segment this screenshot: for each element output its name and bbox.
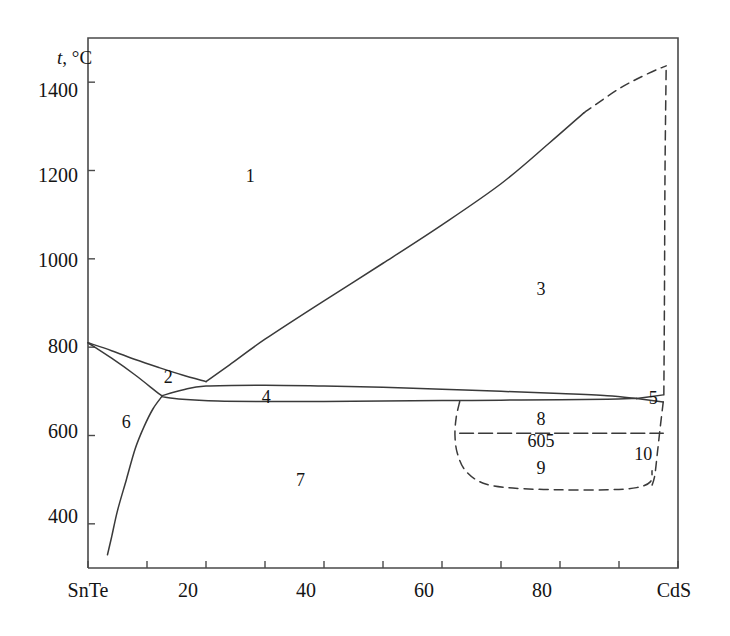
curve-lower-solidus-plateau bbox=[162, 397, 637, 402]
region-label-8: 8 bbox=[511, 410, 571, 428]
x-tick-label-40: 40 bbox=[278, 580, 334, 600]
axis-ticks bbox=[88, 82, 678, 568]
region-label-605: 605 bbox=[511, 432, 571, 450]
y-axis-title-unit: , °C bbox=[62, 47, 92, 68]
region-label-2: 2 bbox=[138, 368, 198, 386]
curve-liquidus-right-branch-solid bbox=[206, 113, 584, 382]
y-tick-label-800: 800 bbox=[18, 336, 78, 356]
region-label-9: 9 bbox=[511, 459, 571, 477]
y-axis-title: t, °C bbox=[57, 48, 92, 67]
region-label-5: 5 bbox=[623, 389, 683, 407]
x-tick-label-snte: SnTe bbox=[52, 580, 124, 600]
plot-frame-path bbox=[88, 38, 678, 568]
y-tick-label-1400: 1400 bbox=[18, 80, 78, 100]
y-tick-label-1200: 1200 bbox=[18, 165, 78, 185]
x-tick-label-cds: CdS bbox=[638, 580, 710, 600]
phase-boundary-curves bbox=[88, 66, 666, 555]
region-label-7: 7 bbox=[270, 471, 330, 489]
region-label-3: 3 bbox=[511, 280, 571, 298]
x-tick-label-80: 80 bbox=[514, 580, 570, 600]
region-label-10: 10 bbox=[613, 445, 673, 463]
y-tick-label-400: 400 bbox=[18, 506, 78, 526]
y-tick-label-1000: 1000 bbox=[18, 250, 78, 270]
region-label-4: 4 bbox=[236, 388, 296, 406]
phase-diagram-figure: t, °C 1400 1200 1000 800 600 400 SnTe 20… bbox=[0, 0, 730, 636]
phase-diagram-plot bbox=[0, 0, 730, 636]
plot-frame bbox=[88, 38, 678, 568]
region-label-1: 1 bbox=[220, 167, 280, 185]
curve-CdS-vertical-dashed bbox=[664, 66, 666, 395]
x-tick-label-60: 60 bbox=[396, 580, 452, 600]
region-label-6: 6 bbox=[96, 413, 156, 431]
curve-liquidus-right-branch-dashed bbox=[584, 66, 667, 113]
y-tick-label-600: 600 bbox=[18, 421, 78, 441]
curve-upper-solidus-plateau bbox=[162, 385, 637, 398]
x-tick-label-20: 20 bbox=[160, 580, 216, 600]
